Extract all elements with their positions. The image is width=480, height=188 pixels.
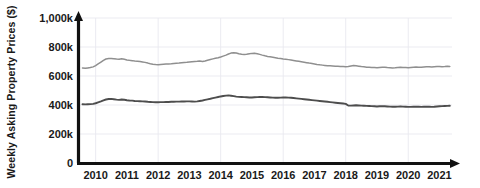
- x-tick-label: 2013: [177, 169, 201, 181]
- y-tick-label: 1,000k: [39, 12, 74, 24]
- y-axis-title: Weekly Asking Property Prices ($): [5, 5, 17, 178]
- x-axis-tick-labels: 2010201120122013201420152016201720182019…: [83, 169, 451, 181]
- x-tick-label: 2015: [240, 169, 264, 181]
- chart-container: 0200k400k600k800k1,000k 2010201120122013…: [0, 0, 480, 188]
- x-tick-label: 2021: [427, 169, 451, 181]
- x-tick-label: 2020: [396, 169, 420, 181]
- x-tick-label: 2010: [83, 169, 107, 181]
- y-tick-label: 800k: [49, 41, 74, 53]
- x-tick-label: 2017: [302, 169, 326, 181]
- y-tick-label: 400k: [49, 99, 74, 111]
- y-tick-label: 0: [67, 157, 73, 169]
- x-tick-label: 2018: [333, 169, 357, 181]
- y-axis-arrow-icon: [74, 11, 83, 21]
- x-tick-label: 2012: [146, 169, 170, 181]
- x-axis-arrow-icon: [450, 159, 460, 168]
- line-chart: 0200k400k600k800k1,000k 2010201120122013…: [0, 0, 480, 188]
- series-line-upper-series: [83, 53, 450, 69]
- y-axis-tick-labels: 0200k400k600k800k1,000k: [39, 12, 74, 169]
- x-tick-label: 2011: [115, 169, 139, 181]
- x-tick-label: 2019: [365, 169, 389, 181]
- series-group: [83, 53, 450, 107]
- y-tick-label: 600k: [49, 70, 74, 82]
- x-tick-label: 2014: [208, 169, 233, 181]
- x-tick-label: 2016: [271, 169, 295, 181]
- grid-lines: [80, 18, 452, 163]
- y-tick-label: 200k: [49, 128, 74, 140]
